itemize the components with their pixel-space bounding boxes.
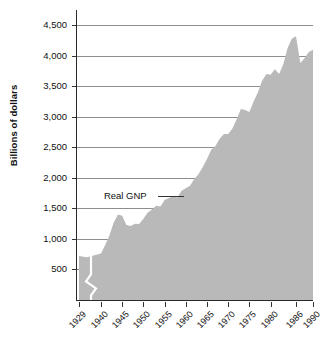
x-axis-line xyxy=(76,300,313,301)
x-tick-mark xyxy=(165,302,166,307)
x-tick-mark xyxy=(79,302,80,307)
x-tick-mark xyxy=(101,302,102,307)
x-tick-mark xyxy=(186,302,187,307)
x-tick-mark xyxy=(249,302,250,307)
plot-area xyxy=(0,0,330,351)
x-tick-mark xyxy=(228,302,229,307)
x-tick-mark xyxy=(207,302,208,307)
x-tick-mark xyxy=(143,302,144,307)
x-tick-mark xyxy=(296,302,297,307)
annotation-leader-line xyxy=(158,196,184,197)
x-tick-mark xyxy=(313,302,314,307)
y-axis-line xyxy=(76,10,77,301)
area-series-real-gnp xyxy=(79,36,313,300)
series-annotation-label: Real GNP xyxy=(104,190,147,201)
x-tick-mark xyxy=(122,302,123,307)
chart-container: Billions of dollars 4,5004,0003,5003,000… xyxy=(0,0,330,351)
x-tick-mark xyxy=(271,302,272,307)
